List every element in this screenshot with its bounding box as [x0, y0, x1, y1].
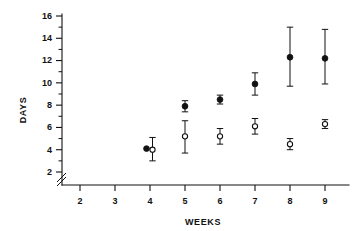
marker-filled-circle	[287, 54, 293, 60]
x-axis-title: WEEKS	[185, 217, 221, 227]
y-tick-label: 10	[42, 78, 52, 88]
chart-canvas: 246810121416 23456789 DAYS WEEKS	[0, 0, 357, 231]
y-tick-label: 8	[47, 100, 52, 110]
marker-open-circle	[217, 134, 222, 139]
x-tick-label: 7	[252, 196, 257, 206]
y-tick-label: 4	[47, 145, 52, 155]
marker-open-circle	[150, 147, 155, 152]
marker-open-circle	[287, 142, 292, 147]
y-tick-label: 12	[42, 55, 52, 65]
y-axis-title: DAYS	[18, 97, 28, 124]
marker-filled-circle	[217, 97, 223, 103]
data-point	[144, 146, 150, 152]
y-tick-label: 2	[47, 167, 52, 177]
x-tick-label: 8	[287, 196, 292, 206]
marker-filled-circle	[322, 55, 328, 61]
marker-open-circle	[252, 124, 257, 129]
marker-open-circle	[322, 121, 327, 126]
y-tick-label: 14	[42, 33, 52, 43]
x-tick-label: 5	[182, 196, 187, 206]
x-tick-label: 6	[217, 196, 222, 206]
chart-figure: 246810121416 23456789 DAYS WEEKS	[0, 0, 357, 231]
x-tick-label: 9	[322, 196, 327, 206]
y-tick-label: 6	[47, 122, 52, 132]
x-tick-label: 2	[77, 196, 82, 206]
marker-filled-circle	[182, 103, 188, 109]
y-tick-label: 16	[42, 11, 52, 21]
marker-filled-circle	[144, 146, 150, 152]
plot-background	[0, 0, 357, 231]
marker-filled-circle	[252, 81, 258, 87]
x-tick-label: 3	[112, 196, 117, 206]
marker-open-circle	[182, 134, 187, 139]
x-tick-label: 4	[147, 196, 152, 206]
